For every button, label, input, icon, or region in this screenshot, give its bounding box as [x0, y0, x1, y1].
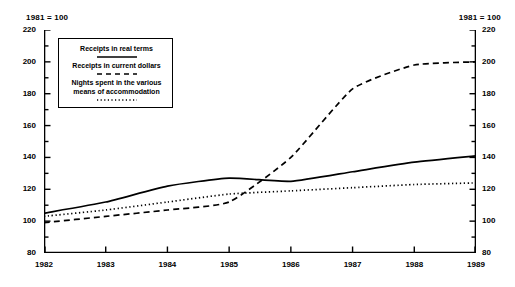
x-tick-label-1983: 1983: [97, 260, 115, 269]
y-axis-left-labels: 22020018016014012010080: [12, 0, 36, 287]
y-tick-label-left-120: 120: [12, 185, 36, 193]
y-tick-label-right-220: 220: [482, 26, 506, 34]
x-tick-label-1986: 1986: [282, 260, 300, 269]
legend-item-label-0: Receipts in real terms: [59, 45, 174, 53]
y-tick-label-right-120: 120: [482, 185, 506, 193]
x-tick-label-1984: 1984: [159, 260, 177, 269]
y-tick-label-right-100: 100: [482, 217, 506, 225]
legend-item-label-2a: Nights spent in the various: [59, 79, 174, 87]
y-tick-label-right-140: 140: [482, 153, 506, 161]
legend-key-dashed: [59, 72, 174, 76]
x-tick-label-1989: 1989: [467, 260, 485, 269]
legend-item-label-2b: means of accommodation: [59, 88, 174, 96]
y-tick-label-left-160: 160: [12, 122, 36, 130]
x-tick-label-1987: 1987: [344, 260, 362, 269]
legend-box: Receipts in real terms Receipts in curre…: [58, 38, 173, 108]
x-tick-label-1985: 1985: [220, 260, 238, 269]
y-tick-label-left-200: 200: [12, 58, 36, 66]
legend-key-dotted: [59, 98, 174, 102]
series-line-0: [44, 156, 476, 213]
x-tick-label-1982: 1982: [35, 260, 53, 269]
y-tick-label-right-200: 200: [482, 58, 506, 66]
y-axis-right-labels: 22020018016014012010080: [482, 0, 506, 287]
y-tick-label-left-220: 220: [12, 26, 36, 34]
y-tick-label-right-80: 80: [482, 249, 506, 257]
legend-item-label-1: Receipts in current dollars: [59, 62, 174, 70]
y-tick-label-left-140: 140: [12, 153, 36, 161]
chart-figure: 1981 = 100 1981 = 100 220200180160140120…: [0, 0, 515, 287]
y-tick-label-right-160: 160: [482, 122, 506, 130]
y-tick-label-right-180: 180: [482, 90, 506, 98]
y-tick-label-left-80: 80: [12, 249, 36, 257]
x-tick-label-1988: 1988: [405, 260, 423, 269]
y-tick-label-left-100: 100: [12, 217, 36, 225]
y-tick-label-left-180: 180: [12, 90, 36, 98]
legend-key-solid: [59, 55, 174, 59]
series-line-2: [44, 183, 476, 216]
